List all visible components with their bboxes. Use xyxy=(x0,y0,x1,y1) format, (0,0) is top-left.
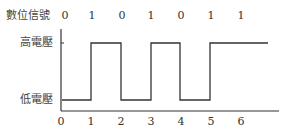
bit-label: 0 xyxy=(178,10,185,22)
bit-label: 1 xyxy=(148,10,155,22)
low-voltage-label: 低電壓 xyxy=(20,94,53,106)
x-tick-label: 5 xyxy=(208,116,215,128)
x-tick-label: 1 xyxy=(88,116,95,128)
bit-label: 1 xyxy=(238,10,245,22)
x-tick-label: 3 xyxy=(148,116,155,128)
bit-label: 0 xyxy=(62,10,69,22)
square-wave xyxy=(62,43,268,100)
high-voltage-label: 高電壓 xyxy=(20,37,53,49)
digital-signal-diagram: 數位信號 0 1 0 1 0 1 1 高電壓 低電壓 0 1 2 3 4 5 6 xyxy=(0,0,288,138)
bit-label: 0 xyxy=(119,10,126,22)
x-tick-label: 0 xyxy=(58,116,65,128)
signal-title: 數位信號 xyxy=(6,10,50,22)
x-tick-label: 6 xyxy=(238,116,245,128)
bit-label: 1 xyxy=(89,10,96,22)
x-tick-label: 4 xyxy=(178,116,185,128)
x-tick-label: 2 xyxy=(118,116,125,128)
bit-label: 1 xyxy=(208,10,215,22)
